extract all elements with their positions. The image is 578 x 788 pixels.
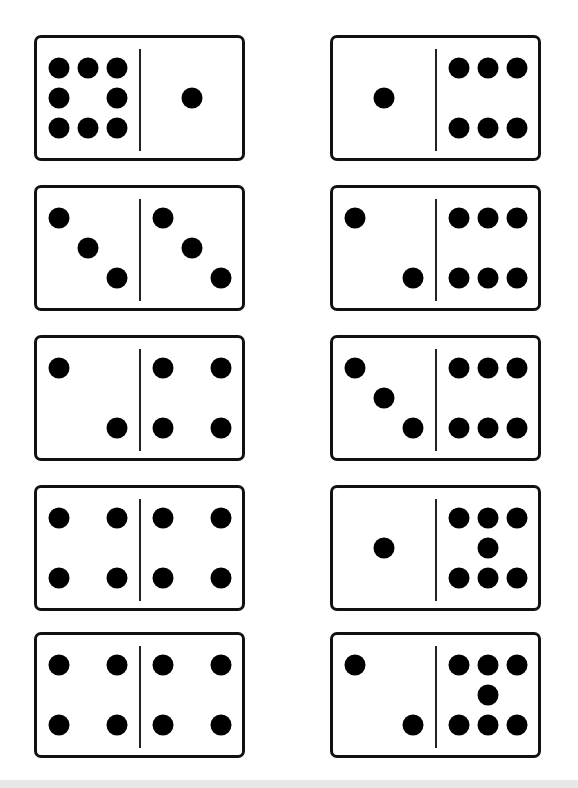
pip-dot-icon: [478, 118, 499, 139]
pip-dot-icon: [478, 358, 499, 379]
pip-dot-icon: [449, 58, 470, 79]
pip-dot-icon: [449, 655, 470, 676]
domino-left-half: [37, 635, 139, 755]
pip-dot-icon: [345, 655, 366, 676]
pip-dot-icon: [478, 715, 499, 736]
pip-dot-icon: [403, 268, 424, 289]
pip-dot-icon: [49, 58, 70, 79]
pip-dot-icon: [153, 418, 174, 439]
pip-dot-icon: [374, 88, 395, 109]
pip-dot-icon: [107, 418, 128, 439]
pip-dot-icon: [78, 238, 99, 259]
pip-dot-icon: [507, 568, 528, 589]
pip-dot-icon: [507, 118, 528, 139]
pip-dot-icon: [211, 568, 232, 589]
pip-dot-icon: [374, 538, 395, 559]
pip-dot-icon: [507, 418, 528, 439]
pip-dot-icon: [507, 655, 528, 676]
domino-4-4: [34, 632, 245, 758]
pip-dot-icon: [49, 715, 70, 736]
pip-dot-icon: [107, 715, 128, 736]
pip-dot-icon: [507, 268, 528, 289]
pip-dot-icon: [403, 715, 424, 736]
domino-left-half: [333, 635, 435, 755]
pip-dot-icon: [153, 655, 174, 676]
page-bottom-edge: [0, 780, 578, 788]
pip-dot-icon: [211, 268, 232, 289]
pip-dot-icon: [49, 88, 70, 109]
pip-dot-icon: [49, 508, 70, 529]
domino-right-half: [437, 338, 539, 458]
domino-left-half: [333, 488, 435, 608]
pip-dot-icon: [478, 418, 499, 439]
domino-right-half: [437, 635, 539, 755]
pip-dot-icon: [49, 208, 70, 229]
pip-dot-icon: [449, 268, 470, 289]
domino-right-half: [437, 488, 539, 608]
pip-dot-icon: [449, 568, 470, 589]
pip-dot-icon: [107, 88, 128, 109]
domino-1-7: [330, 485, 541, 611]
pip-dot-icon: [78, 118, 99, 139]
pip-dot-icon: [478, 538, 499, 559]
domino-1-6: [330, 35, 541, 161]
pip-dot-icon: [211, 715, 232, 736]
domino-left-half: [37, 338, 139, 458]
domino-right-half: [437, 38, 539, 158]
domino-left-half: [37, 488, 139, 608]
pip-dot-icon: [345, 358, 366, 379]
pip-dot-icon: [478, 208, 499, 229]
pip-dot-icon: [49, 568, 70, 589]
pip-dot-icon: [153, 568, 174, 589]
pip-dot-icon: [478, 685, 499, 706]
pip-dot-icon: [107, 118, 128, 139]
domino-3-6: [330, 335, 541, 461]
pip-dot-icon: [449, 208, 470, 229]
domino-right-half: [141, 635, 243, 755]
domino-divider-line: [435, 499, 437, 601]
pip-dot-icon: [49, 358, 70, 379]
pip-dot-icon: [211, 655, 232, 676]
domino-right-half: [141, 188, 243, 308]
pip-dot-icon: [107, 508, 128, 529]
pip-dot-icon: [107, 268, 128, 289]
domino-divider-line: [435, 199, 437, 301]
domino-divider-line: [139, 199, 141, 301]
pip-dot-icon: [211, 418, 232, 439]
pip-dot-icon: [449, 118, 470, 139]
pip-dot-icon: [153, 715, 174, 736]
pip-dot-icon: [478, 58, 499, 79]
pip-dot-icon: [211, 508, 232, 529]
pip-dot-icon: [449, 715, 470, 736]
pip-dot-icon: [107, 568, 128, 589]
pip-dot-icon: [507, 715, 528, 736]
domino-2-4: [34, 335, 245, 461]
pip-dot-icon: [449, 418, 470, 439]
pip-dot-icon: [507, 208, 528, 229]
pip-dot-icon: [507, 58, 528, 79]
pip-dot-icon: [374, 388, 395, 409]
domino-right-half: [141, 338, 243, 458]
pip-dot-icon: [507, 508, 528, 529]
domino-2-7: [330, 632, 541, 758]
pip-dot-icon: [78, 58, 99, 79]
pip-dot-icon: [478, 508, 499, 529]
pip-dot-icon: [49, 655, 70, 676]
pip-dot-icon: [153, 358, 174, 379]
domino-right-half: [141, 488, 243, 608]
pip-dot-icon: [211, 358, 232, 379]
domino-left-half: [37, 188, 139, 308]
pip-dot-icon: [107, 655, 128, 676]
domino-divider-line: [139, 499, 141, 601]
domino-divider-line: [435, 49, 437, 151]
domino-4-4: [34, 485, 245, 611]
pip-dot-icon: [449, 508, 470, 529]
domino-3-3: [34, 185, 245, 311]
pip-dot-icon: [153, 208, 174, 229]
pip-dot-icon: [182, 238, 203, 259]
domino-left-half: [333, 38, 435, 158]
pip-dot-icon: [478, 568, 499, 589]
pip-dot-icon: [182, 88, 203, 109]
domino-right-half: [437, 188, 539, 308]
pip-dot-icon: [478, 268, 499, 289]
